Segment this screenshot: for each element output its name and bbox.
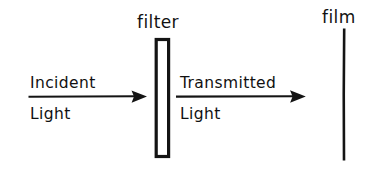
filter-plate <box>156 40 168 157</box>
optics-diagram: filter film Incident Light Transmitted L… <box>0 0 373 173</box>
filter-plate-body <box>156 40 168 157</box>
incident-light-label-line2: Light <box>30 105 71 123</box>
film-label: film <box>322 7 356 27</box>
incident-arrow-shaft <box>29 96 137 97</box>
transmitted-light-label-line2: Light <box>180 105 221 123</box>
filter-label: filter <box>137 12 179 32</box>
incident-light-label-line1: Incident <box>30 74 96 92</box>
transmitted-light-label-line1: Transmitted <box>179 74 276 92</box>
diagram-canvas: filter film Incident Light Transmitted L… <box>0 0 373 173</box>
